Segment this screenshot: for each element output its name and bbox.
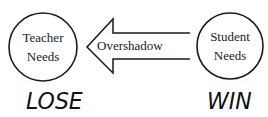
- teacher-outcome-label: LOSE: [26, 89, 83, 114]
- teacher-needs-line2: Needs: [13, 49, 73, 65]
- needs-diagram: Teacher Needs Student Needs Overshadow L…: [0, 0, 268, 117]
- teacher-needs-label: Teacher Needs: [13, 30, 73, 65]
- student-needs-line1: Student: [200, 29, 260, 45]
- student-needs-line2: Needs: [200, 48, 260, 64]
- overshadow-label: Overshadow: [97, 38, 163, 54]
- teacher-needs-line1: Teacher: [13, 30, 73, 46]
- student-outcome-label: WIN: [207, 89, 252, 114]
- student-needs-label: Student Needs: [200, 29, 260, 64]
